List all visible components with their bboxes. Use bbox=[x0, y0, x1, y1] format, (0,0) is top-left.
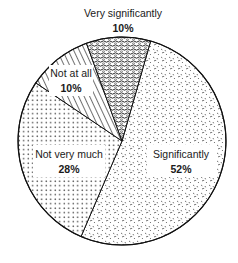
slice-value-not-at-all: 10% bbox=[60, 82, 82, 94]
slice-value-very-significantly: 10% bbox=[112, 22, 134, 34]
label-very-significantly: Very significantly 10% bbox=[84, 7, 163, 34]
slice-label-not-at-all: Not at all bbox=[50, 67, 91, 79]
label-not-at-all: Not at all 10% bbox=[49, 65, 93, 96]
label-significantly: Significantly 52% bbox=[147, 145, 217, 177]
slice-label-not-very-much: Not very much bbox=[35, 148, 103, 160]
slice-label-very-significantly: Very significantly bbox=[84, 7, 163, 19]
label-not-very-much: Not very much 28% bbox=[33, 145, 105, 177]
pie-chart: Very significantly 10% Not at all 10% No… bbox=[0, 0, 238, 263]
slice-value-not-very-much: 28% bbox=[58, 163, 80, 175]
slice-label-significantly: Significantly bbox=[153, 148, 210, 160]
slice-value-significantly: 52% bbox=[170, 163, 192, 175]
